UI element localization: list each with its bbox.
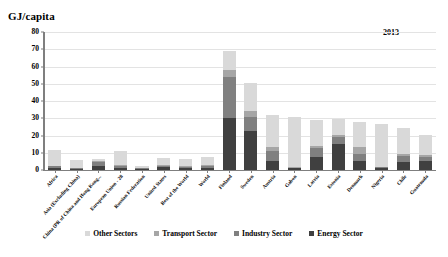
chart-container: GJ/capita 2013 01020304050607080 AfricaA… <box>0 0 448 257</box>
stacked-bar[interactable] <box>375 124 388 170</box>
legend-label: Industry Sector <box>242 230 292 238</box>
bar-segment <box>244 117 257 131</box>
stacked-bar[interactable] <box>157 158 170 170</box>
legend-swatch <box>85 231 90 236</box>
y-tick-label: 40 <box>32 97 40 105</box>
x-axis-label: Finland <box>218 174 233 190</box>
x-axis-label: Gabon <box>284 174 298 189</box>
stacked-bar[interactable] <box>310 120 323 170</box>
bar-slot <box>305 32 327 170</box>
bar-segment <box>353 161 366 170</box>
bar-segment <box>397 128 410 154</box>
stacked-bar[interactable] <box>353 122 366 170</box>
bar-slot <box>327 32 349 170</box>
x-label-slot: Latvia <box>305 172 327 232</box>
bar-slot <box>66 32 88 170</box>
x-label-slot: World <box>196 172 218 232</box>
x-axis-label: Latvia <box>307 174 321 188</box>
bar-segment <box>244 83 257 111</box>
bar-segment <box>48 150 61 166</box>
bar-slot <box>88 32 110 170</box>
legend-item[interactable]: Industry Sector <box>234 230 292 238</box>
bar-slot <box>131 32 153 170</box>
x-axis-label: Estonia <box>327 174 342 190</box>
legend-label: Other Sectors <box>93 230 137 238</box>
x-axis-label: Denmark <box>346 174 364 193</box>
stacked-bar[interactable] <box>332 119 345 170</box>
y-tick-label: 30 <box>32 115 40 123</box>
stacked-bar[interactable] <box>179 159 192 170</box>
x-label-slot: Rest of the World <box>175 172 197 232</box>
x-label-slot: Sweden <box>240 172 262 232</box>
plot-area: 01020304050607080 <box>44 32 436 170</box>
bar-slot <box>153 32 175 170</box>
x-label-slot: Chile <box>393 172 415 232</box>
x-label-slot: Guatemala <box>414 172 436 232</box>
bar-segment <box>266 161 279 170</box>
stacked-bar[interactable] <box>419 135 432 170</box>
bar-slot <box>393 32 415 170</box>
bar-segment <box>353 147 366 154</box>
bar-segment <box>179 159 192 166</box>
y-tick-label: 10 <box>32 149 40 157</box>
bar-slot <box>349 32 371 170</box>
legend-item[interactable]: Energy Sector <box>309 230 363 238</box>
bar-segment <box>288 117 301 167</box>
stacked-bar[interactable] <box>244 83 257 170</box>
bar-slot <box>371 32 393 170</box>
y-tick-label: 80 <box>32 28 40 36</box>
x-label-slot: Finland <box>218 172 240 232</box>
bar-segment <box>310 148 323 157</box>
bar-segment <box>332 137 345 144</box>
bar-slot <box>196 32 218 170</box>
bar-segment <box>310 120 323 146</box>
stacked-bar[interactable] <box>266 115 279 170</box>
bar-segment <box>70 160 83 168</box>
bar-segment <box>419 161 432 170</box>
bar-segment <box>419 135 432 156</box>
bar-segment <box>397 162 410 170</box>
legend-item[interactable]: Transport Sector <box>154 230 217 238</box>
legend-swatch <box>309 231 314 236</box>
bar-segment <box>223 118 236 170</box>
y-tick-label: 20 <box>32 132 40 140</box>
bar-segment <box>223 51 236 70</box>
x-label-slot: Denmark <box>349 172 371 232</box>
stacked-bar[interactable] <box>92 159 105 170</box>
x-label-slot: Russian Federation <box>131 172 153 232</box>
stacked-bar[interactable] <box>48 150 61 170</box>
bar-slot <box>240 32 262 170</box>
bar-segment <box>244 131 257 170</box>
x-axis-label: Austria <box>262 174 277 190</box>
y-axis-title: GJ/capita <box>8 10 55 22</box>
stacked-bar[interactable] <box>114 151 127 170</box>
bar-segment <box>223 77 236 118</box>
bar-slot <box>262 32 284 170</box>
bar-segment <box>332 144 345 170</box>
stacked-bar[interactable] <box>70 160 83 170</box>
stacked-bar[interactable] <box>201 157 214 170</box>
bar-segment <box>375 124 388 167</box>
legend-label: Transport Sector <box>162 230 217 238</box>
bar-segment <box>266 115 279 147</box>
bar-slot <box>414 32 436 170</box>
bar-slot <box>284 32 306 170</box>
x-axis-label: Chile <box>395 174 407 186</box>
x-axis-labels: AfricaAsia (Excluding China)China (PR of… <box>44 172 436 232</box>
bar-segment <box>114 151 127 165</box>
legend-item[interactable]: Other Sectors <box>85 230 137 238</box>
bar-segment <box>310 157 323 170</box>
y-tick-label: 50 <box>32 80 40 88</box>
chart-legend: Other SectorsTransport SectorIndustry Se… <box>0 230 448 238</box>
stacked-bar[interactable] <box>288 117 301 170</box>
bar-segment <box>266 151 279 161</box>
y-tick-label: 70 <box>32 46 40 54</box>
stacked-bar[interactable] <box>397 128 410 170</box>
bar-slot <box>109 32 131 170</box>
bar-segment <box>332 119 345 135</box>
bar-segment <box>353 122 366 147</box>
stacked-bar[interactable] <box>223 51 236 170</box>
x-axis-label: Sweden <box>240 174 255 190</box>
x-axis-label: Africa <box>45 174 58 188</box>
x-axis-label: World <box>198 174 211 188</box>
